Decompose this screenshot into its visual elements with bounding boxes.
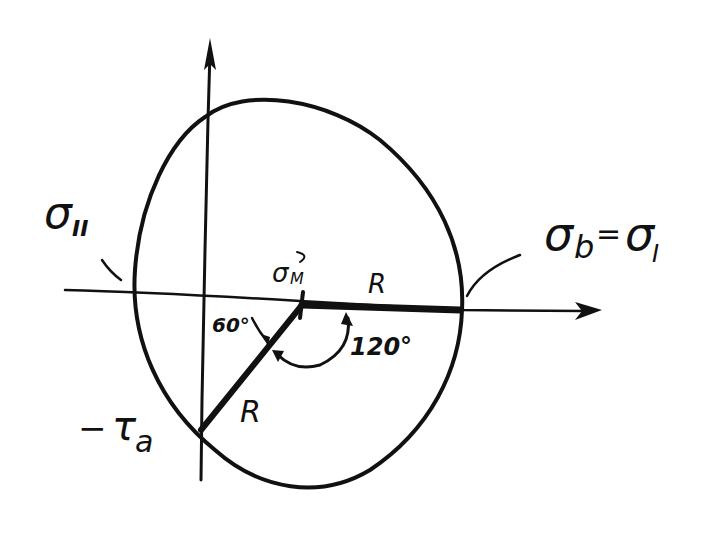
svg-text:−: − <box>78 408 107 448</box>
mohr-circle-diagram: σ II σ b = σ I σ M R R 60° 120° − τ a <box>0 0 716 535</box>
sigma-b-leader <box>467 255 520 296</box>
sigma-m-squiggle <box>297 252 304 262</box>
radius-horizontal <box>302 305 460 310</box>
label-radius-diagonal: R <box>240 394 261 429</box>
svg-text:II: II <box>72 216 88 241</box>
svg-text:b: b <box>574 228 594 266</box>
svg-text:a: a <box>135 424 153 459</box>
label-angle-120: 120° <box>350 333 412 361</box>
sigma-ii-leader <box>102 260 121 280</box>
svg-text:τ: τ <box>112 403 137 449</box>
svg-text:I: I <box>652 240 659 268</box>
angle-60-arc <box>252 318 270 346</box>
sigma-m-tick <box>300 292 303 318</box>
svg-text:M: M <box>290 269 304 288</box>
label-sigma-ii: σ II <box>44 187 88 241</box>
label-radius-horizontal: R <box>368 269 386 299</box>
label-angle-60: 60° <box>212 313 250 337</box>
label-minus-tau-a: − τ a <box>78 403 153 459</box>
svg-text:=: = <box>596 216 621 251</box>
svg-text:σ: σ <box>272 258 290 288</box>
angle-120-arc <box>272 312 353 367</box>
label-sigma-b-eq-sigma-i: σ b = σ I <box>544 207 659 268</box>
svg-text:σ: σ <box>44 187 73 238</box>
svg-text:σ: σ <box>544 207 575 261</box>
